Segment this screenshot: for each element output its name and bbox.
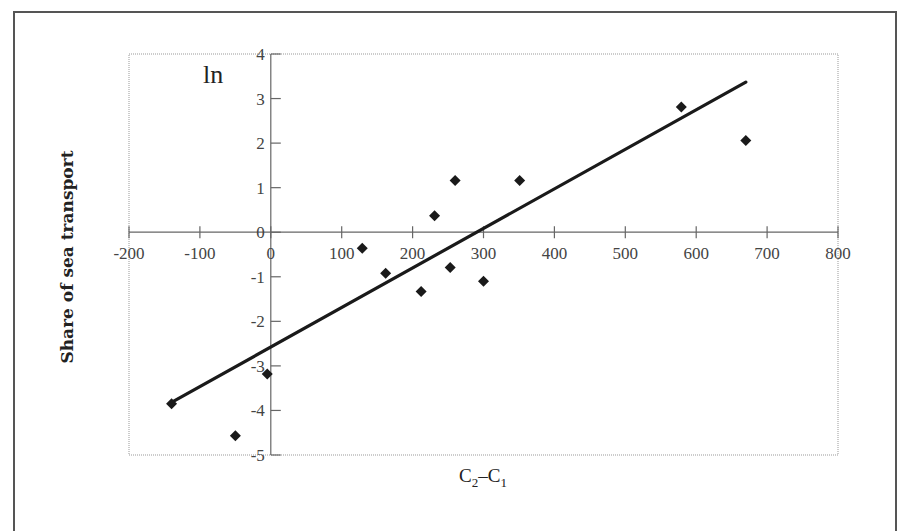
x-tick-label: 600 [683, 244, 709, 263]
diamond-marker [380, 268, 391, 279]
x-tick-label: 200 [400, 244, 426, 263]
y-tick-label: -2 [251, 312, 265, 331]
y-tick-label: -5 [251, 446, 265, 465]
fit-line [172, 82, 746, 402]
y-tick-label: 2 [256, 134, 265, 153]
y-tick-label: 1 [256, 179, 265, 198]
x-tick-label: 300 [471, 244, 497, 263]
diamond-marker [478, 276, 489, 287]
x-tick-label: 100 [329, 244, 355, 263]
x-tick-label: 500 [613, 244, 639, 263]
x-tick-label: -100 [184, 244, 215, 263]
y-tick-label: -1 [251, 268, 265, 287]
x-axis-label: C2–C1 [459, 465, 507, 490]
x-tick-label: 800 [825, 244, 851, 263]
y-tick-label: 3 [256, 90, 265, 109]
x-tick-label: 700 [754, 244, 780, 263]
x-tick-label: 0 [267, 244, 276, 263]
y-axis-label: Share of sea transport [57, 150, 77, 363]
diamond-marker [676, 102, 687, 113]
diamond-marker [429, 210, 440, 221]
diamond-marker [514, 175, 525, 186]
axes: -200-1000100200300400500600700800-5-4-3-… [113, 45, 850, 465]
diamond-marker [450, 175, 461, 186]
regression-line [172, 82, 746, 402]
y-annotation-ln: ln [203, 60, 223, 89]
diamond-marker [416, 286, 427, 297]
x-tick-label: 400 [542, 244, 568, 263]
diamond-marker [445, 262, 456, 273]
x-tick-label: -200 [113, 244, 144, 263]
y-tick-label: -4 [251, 401, 266, 420]
diamond-marker [740, 135, 751, 146]
diamond-marker [230, 430, 241, 441]
diamond-marker [357, 243, 368, 254]
y-tick-label: 0 [256, 223, 265, 242]
y-tick-label: 4 [256, 45, 265, 64]
